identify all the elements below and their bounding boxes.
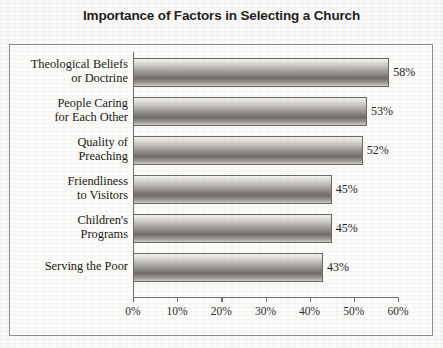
x-tick-label-30: 30%: [246, 305, 286, 317]
category-label-2-line-0: Quality of: [4, 135, 128, 149]
bar-childrens-programs: [133, 214, 332, 243]
category-label-4-line-0: Children's: [4, 213, 128, 227]
category-label-5: Serving the Poor: [4, 259, 128, 273]
x-tick-0: [133, 297, 134, 302]
category-label-5-line-0: Serving the Poor: [4, 259, 128, 273]
bar-friendliness: [133, 175, 332, 204]
x-tick-50: [354, 297, 355, 302]
x-tick-label-20: 20%: [201, 305, 241, 317]
category-label-4-line-1: Programs: [4, 227, 128, 241]
category-label-3-line-0: Friendliness: [4, 174, 128, 188]
value-label-1: 53%: [371, 104, 393, 119]
x-tick-label-10: 10%: [157, 305, 197, 317]
x-tick-10: [177, 297, 178, 302]
value-label-2: 52%: [367, 143, 389, 158]
category-label-1-line-0: People Caring: [4, 96, 128, 110]
x-tick-label-60: 60%: [378, 305, 418, 317]
value-label-3: 45%: [336, 182, 358, 197]
value-label-4: 45%: [336, 221, 358, 236]
bar-theological-beliefs: [133, 58, 389, 87]
category-label-0-line-0: Theological Beliefs: [4, 57, 128, 71]
x-tick-60: [398, 297, 399, 302]
bar-quality-of-preaching: [133, 136, 363, 165]
value-label-5: 43%: [327, 260, 349, 275]
bar-serving-the-poor: [133, 253, 323, 282]
category-label-2-line-1: Preaching: [4, 149, 128, 163]
category-label-2: Quality of Preaching: [4, 135, 128, 163]
category-label-1: People Caring for Each Other: [4, 96, 128, 124]
x-tick-20: [221, 297, 222, 302]
x-tick-40: [310, 297, 311, 302]
category-label-0: Theological Beliefs or Doctrine: [4, 57, 128, 85]
category-label-1-line-1: for Each Other: [4, 110, 128, 124]
category-label-0-line-1: or Doctrine: [4, 71, 128, 85]
value-label-0: 58%: [393, 65, 415, 80]
bar-people-caring: [133, 97, 367, 126]
chart-title: Importance of Factors in Selecting a Chu…: [0, 8, 443, 23]
x-tick-label-40: 40%: [290, 305, 330, 317]
category-label-3-line-1: to Visitors: [4, 188, 128, 202]
x-tick-label-50: 50%: [334, 305, 374, 317]
x-tick-30: [266, 297, 267, 302]
category-label-3: Friendliness to Visitors: [4, 174, 128, 202]
category-label-4: Children's Programs: [4, 213, 128, 241]
chart-page: Importance of Factors in Selecting a Chu…: [0, 0, 443, 348]
x-tick-label-0: 0%: [113, 305, 153, 317]
